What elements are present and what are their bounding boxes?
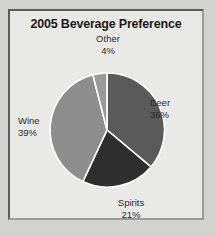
pie-label-other: Other 4% (72, 33, 144, 56)
pie-label-beer: Beer 36% (150, 97, 202, 120)
pie-label-other-value: 4% (72, 45, 144, 57)
pie-label-other-name: Other (72, 33, 144, 45)
chart-screenshot: 2005 Beverage Preference Other 4% Beer 3… (0, 0, 216, 236)
chart-panel: 2005 Beverage Preference Other 4% Beer 3… (10, 11, 202, 218)
pie-label-spirits-value: 21% (96, 209, 166, 221)
pie-label-beer-name: Beer (150, 97, 202, 109)
pie-label-wine: Wine 39% (18, 115, 70, 138)
pie-label-wine-value: 39% (18, 127, 70, 139)
pie-label-beer-value: 36% (150, 109, 202, 121)
pie-label-spirits-name: Spirits (96, 197, 166, 209)
pie-label-wine-name: Wine (18, 115, 70, 127)
pie-label-spirits: Spirits 21% (96, 197, 166, 220)
chart-frame: 2005 Beverage Preference Other 4% Beer 3… (8, 9, 204, 220)
